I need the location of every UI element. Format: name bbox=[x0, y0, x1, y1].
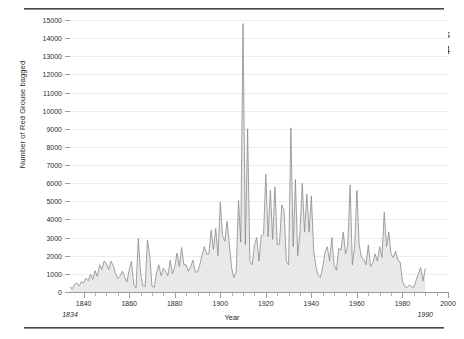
y-axis-tick-label: 8000 bbox=[46, 143, 62, 150]
x-axis-tick bbox=[129, 293, 130, 298]
x-axis-tick-minor bbox=[300, 293, 301, 296]
x-axis-tick-minor bbox=[334, 293, 335, 296]
x-axis-tick-minor bbox=[243, 293, 244, 296]
x-axis-tick-minor bbox=[186, 293, 187, 296]
top-divider-rule bbox=[24, 8, 444, 10]
x-axis-tick-minor bbox=[425, 293, 426, 296]
x-axis-tick bbox=[311, 293, 312, 298]
x-axis-tick bbox=[448, 293, 449, 298]
x-axis-tick-minor bbox=[414, 293, 415, 296]
y-axis-tick-label: 10000 bbox=[43, 107, 62, 114]
x-axis-tick bbox=[266, 293, 267, 298]
x-axis-tick-minor bbox=[209, 293, 210, 296]
x-axis-tick-minor bbox=[391, 293, 392, 296]
x-axis-tick-minor bbox=[106, 293, 107, 296]
start-year-annotation: 1834 bbox=[62, 311, 78, 318]
x-axis-tick-minor bbox=[380, 293, 381, 296]
x-axis-tick-label: 1980 bbox=[395, 300, 411, 307]
y-axis-tick-label: 14000 bbox=[43, 35, 62, 42]
x-axis-tick-label: 1940 bbox=[304, 300, 320, 307]
x-axis-tick-label: 1920 bbox=[258, 300, 274, 307]
y-axis-tick-label: 6000 bbox=[46, 180, 62, 187]
x-axis-tick-minor bbox=[163, 293, 164, 296]
x-axis-tick-minor bbox=[346, 293, 347, 296]
x-axis-tick-minor bbox=[254, 293, 255, 296]
y-axis-tick-label: 3000 bbox=[46, 234, 62, 241]
plot-area: 0100020003000400050006000700080009000100… bbox=[70, 20, 448, 292]
x-axis-tick bbox=[220, 293, 221, 298]
series-area-fill bbox=[70, 24, 425, 292]
y-axis-tick-label: 7000 bbox=[46, 162, 62, 169]
chart-figure: Drumlanrig Grouse Records since 1834 Num… bbox=[0, 14, 464, 326]
y-axis-tick-label: 13000 bbox=[43, 53, 62, 60]
y-axis-tick-label: 5000 bbox=[46, 198, 62, 205]
x-axis-tick bbox=[357, 293, 358, 298]
x-axis-tick-minor bbox=[437, 293, 438, 296]
y-axis-tick-label: 0 bbox=[58, 289, 62, 296]
x-axis-tick-minor bbox=[323, 293, 324, 296]
grouse-bag-area-series bbox=[70, 20, 448, 292]
x-axis-tick bbox=[84, 293, 85, 298]
x-axis-tick-minor bbox=[198, 293, 199, 296]
x-axis-tick-minor bbox=[289, 293, 290, 296]
y-axis-tick-label: 12000 bbox=[43, 71, 62, 78]
x-axis-tick-label: 2000 bbox=[440, 300, 456, 307]
end-year-annotation: 1990 bbox=[417, 311, 433, 318]
x-axis-tick-label: 1880 bbox=[167, 300, 183, 307]
x-axis-tick bbox=[175, 293, 176, 298]
x-axis-tick-label: 1960 bbox=[349, 300, 365, 307]
y-axis-tick-label: 15000 bbox=[43, 17, 62, 24]
y-axis-tick-label: 4000 bbox=[46, 216, 62, 223]
x-axis-tick bbox=[402, 293, 403, 298]
bottom-divider-rule bbox=[24, 327, 444, 329]
y-axis-tick-label: 1000 bbox=[46, 270, 62, 277]
x-axis-tick-minor bbox=[152, 293, 153, 296]
x-axis-tick-label: 1840 bbox=[76, 300, 92, 307]
y-axis-label: Number of Red Grouse bagged bbox=[18, 55, 27, 175]
x-axis-tick-minor bbox=[277, 293, 278, 296]
x-axis-tick-label: 1900 bbox=[212, 300, 228, 307]
chart-page: Drumlanrig Grouse Records since 1834 Num… bbox=[0, 0, 464, 339]
x-axis-tick-label: 1860 bbox=[121, 300, 137, 307]
x-axis-tick-minor bbox=[95, 293, 96, 296]
x-axis-tick-minor bbox=[368, 293, 369, 296]
x-axis-tick-minor bbox=[141, 293, 142, 296]
x-axis-tick-minor bbox=[232, 293, 233, 296]
y-axis-tick-label: 11000 bbox=[43, 89, 62, 96]
y-axis-tick-label: 9000 bbox=[46, 125, 62, 132]
x-axis-tick-minor bbox=[118, 293, 119, 296]
x-axis-ticks: 1840186018801900192019401960198020001834… bbox=[70, 293, 449, 315]
y-axis-tick-label: 2000 bbox=[46, 252, 62, 259]
